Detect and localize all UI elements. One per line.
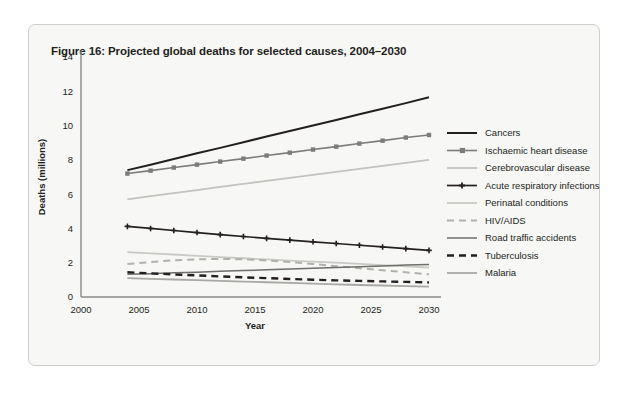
- series-marker: [357, 242, 363, 248]
- line-chart: 024681012142000200520102015202020252030Y…: [29, 25, 601, 367]
- x-tick-label: 2025: [360, 304, 381, 315]
- legend-marker: [459, 183, 465, 189]
- y-tick-label: 4: [68, 223, 73, 234]
- legend-marker: [460, 148, 465, 153]
- y-tick-label: 8: [68, 154, 73, 165]
- series-marker: [427, 133, 431, 137]
- series-marker: [426, 248, 432, 254]
- series-marker: [241, 156, 245, 160]
- series-marker: [195, 162, 199, 166]
- x-tick-label: 2010: [186, 304, 207, 315]
- y-tick-label: 0: [68, 291, 73, 302]
- series-marker: [171, 228, 177, 234]
- series-marker: [125, 171, 129, 175]
- series-marker: [311, 147, 315, 151]
- y-tick-label: 12: [62, 86, 73, 97]
- legend-label-1[interactable]: Ischaemic heart disease: [485, 145, 587, 156]
- series-marker: [125, 224, 131, 230]
- series-line-0: [127, 97, 429, 170]
- series-marker: [380, 138, 384, 142]
- y-tick-label: 2: [68, 257, 73, 268]
- series-marker: [380, 244, 386, 250]
- legend-label-5[interactable]: HIV/AIDS: [485, 215, 526, 226]
- series-marker: [218, 159, 222, 163]
- series-marker: [148, 168, 152, 172]
- series-marker: [172, 165, 176, 169]
- series-marker: [404, 135, 408, 139]
- x-tick-label: 2005: [128, 304, 149, 315]
- series-marker: [403, 246, 409, 252]
- legend-label-2[interactable]: Cerebrovascular disease: [485, 162, 590, 173]
- x-tick-label: 2015: [244, 304, 265, 315]
- series-marker: [334, 144, 338, 148]
- legend-label-8[interactable]: Malaria: [485, 267, 517, 278]
- y-axis-title: Deaths (millions): [36, 139, 47, 216]
- series-marker: [264, 153, 268, 157]
- legend-label-0[interactable]: Cancers: [485, 127, 521, 138]
- series-marker: [264, 236, 270, 242]
- series-marker: [241, 234, 247, 240]
- x-tick-label: 2030: [418, 304, 439, 315]
- series-marker: [310, 239, 316, 245]
- legend-label-7[interactable]: Tuberculosis: [485, 250, 539, 261]
- y-tick-label: 10: [62, 120, 73, 131]
- series-marker: [288, 150, 292, 154]
- series-marker: [333, 241, 339, 247]
- figure-card: Figure 16: Projected global deaths for s…: [28, 24, 600, 366]
- series-line-7: [127, 272, 429, 282]
- x-axis-title: Year: [245, 320, 265, 331]
- chart-plot-area: 024681012142000200520102015202020252030Y…: [29, 25, 601, 367]
- y-tick-label: 6: [68, 189, 73, 200]
- series-marker: [217, 232, 223, 238]
- series-marker: [357, 141, 361, 145]
- x-tick-label: 2000: [70, 304, 91, 315]
- series-marker: [194, 230, 200, 236]
- series-marker: [287, 237, 293, 243]
- series-marker: [148, 226, 154, 232]
- legend-label-6[interactable]: Road traffic accidents: [485, 232, 576, 243]
- legend-label-4[interactable]: Perinatal conditions: [485, 197, 568, 208]
- legend-label-3[interactable]: Acute respiratory infections: [485, 180, 600, 191]
- y-tick-label: 14: [62, 51, 73, 62]
- x-tick-label: 2020: [302, 304, 323, 315]
